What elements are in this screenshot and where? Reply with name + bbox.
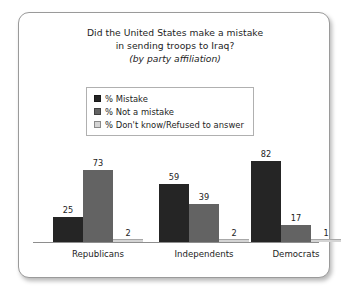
legend-swatch-icon-not-a-mistake xyxy=(94,108,101,115)
bar[interactable] xyxy=(83,170,113,242)
legend-label-dont-know: % Don't know/Refused to answer xyxy=(105,120,244,130)
chart-title-line-1: Did the United States make a mistake xyxy=(19,27,331,40)
chart-category-labels: RepublicansIndependentsDemocrats xyxy=(33,249,319,267)
bar[interactable] xyxy=(281,225,311,242)
legend-swatch-icon-dont-know xyxy=(94,121,101,128)
bar-item[interactable]: 59 xyxy=(159,141,189,242)
bar[interactable] xyxy=(251,161,281,242)
chart-plot-area: 257325939282171 xyxy=(33,141,319,242)
bar-value-label: 2 xyxy=(113,229,143,238)
legend-item-mistake: % Mistake xyxy=(94,92,244,105)
bar[interactable] xyxy=(189,204,219,242)
bar-item[interactable]: 25 xyxy=(53,141,83,242)
bar-value-label: 25 xyxy=(53,206,83,215)
bar-value-label: 39 xyxy=(189,193,219,202)
category-label: Democrats xyxy=(233,249,351,259)
bar[interactable] xyxy=(159,184,189,242)
bar-value-label: 59 xyxy=(159,173,189,182)
bar-value-label: 17 xyxy=(281,214,311,223)
bar[interactable] xyxy=(53,217,83,242)
bar-value-label: 2 xyxy=(219,229,249,238)
bar-item[interactable]: 17 xyxy=(281,141,311,242)
legend-label-not-a-mistake: % Not a mistake xyxy=(105,107,174,117)
legend-swatch-icon-mistake xyxy=(94,95,101,102)
bar-value-label: 1 xyxy=(311,229,341,238)
legend-label-mistake: % Mistake xyxy=(105,94,148,104)
chart-title-line-2: in sending troops to Iraq? xyxy=(19,40,331,53)
bar-item[interactable]: 73 xyxy=(83,141,113,242)
bar-item[interactable]: 1 xyxy=(311,141,341,242)
bar-item[interactable]: 82 xyxy=(251,141,281,242)
chart-title-block: Did the United States make a mistake in … xyxy=(19,27,331,66)
bar-item[interactable]: 2 xyxy=(219,141,249,242)
legend-item-dont-know: % Don't know/Refused to answer xyxy=(94,118,244,131)
chart-axis-baseline xyxy=(33,242,319,243)
legend-item-not-a-mistake: % Not a mistake xyxy=(94,105,244,118)
bar-value-label: 82 xyxy=(251,150,281,159)
bar-value-label: 73 xyxy=(83,159,113,168)
chart-frame: Did the United States make a mistake in … xyxy=(18,12,330,278)
bar-item[interactable]: 2 xyxy=(113,141,143,242)
chart-subtitle: (by party affiliation) xyxy=(19,52,331,66)
bar-item[interactable]: 39 xyxy=(189,141,219,242)
chart-legend: % Mistake % Not a mistake % Don't know/R… xyxy=(86,87,254,136)
